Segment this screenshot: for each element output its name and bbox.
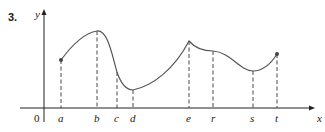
endpoint-a-marker <box>59 58 63 62</box>
problem-number: 3. <box>8 11 17 23</box>
tick-label-b: b <box>94 112 100 124</box>
y-axis-label: y <box>34 8 40 20</box>
x-axis-arrow-icon <box>309 106 315 111</box>
tick-label-a: a <box>58 112 64 124</box>
function-graph: 3. y x 0 a b c d e r s t <box>0 0 325 132</box>
tick-label-e: e <box>186 112 191 124</box>
origin-label: 0 <box>34 112 40 124</box>
y-axis-arrow-icon <box>42 9 47 15</box>
endpoint-t-marker <box>275 52 279 56</box>
x-axis-label: x <box>316 112 322 124</box>
function-curve <box>61 31 277 90</box>
tick-label-d: d <box>130 112 136 124</box>
tick-label-c: c <box>114 112 119 124</box>
tick-label-t: t <box>275 112 279 124</box>
x-tick-labels: a b c d e r s t <box>58 112 279 124</box>
tick-label-s: s <box>250 112 254 124</box>
tick-label-r: r <box>211 112 216 124</box>
